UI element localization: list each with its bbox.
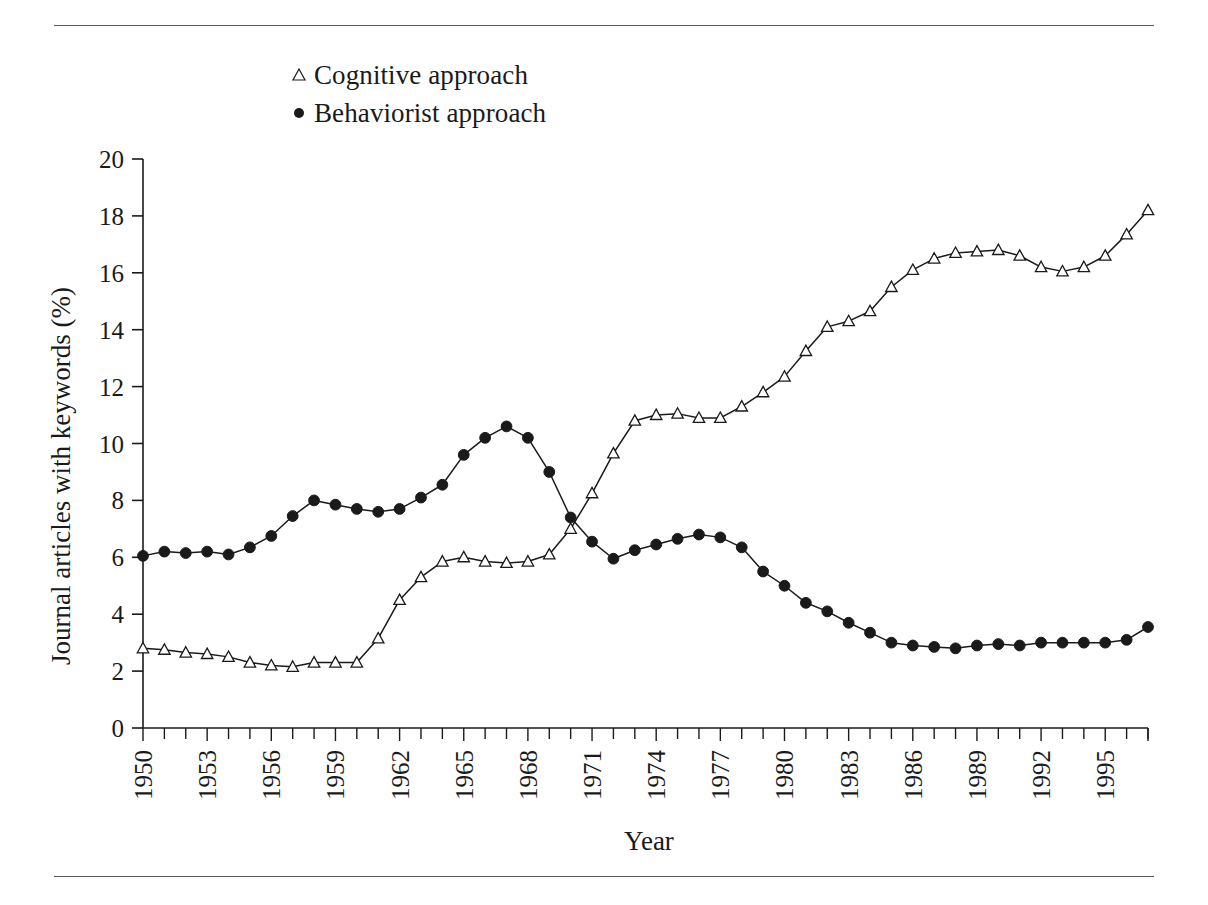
y-axis-title: Journal articles with keywords (%) — [46, 287, 77, 665]
x-tick-label: 1953 — [194, 750, 221, 800]
data-point-marker — [202, 546, 213, 557]
x-tick-label: 1974 — [643, 750, 670, 801]
data-point-marker — [758, 566, 769, 577]
data-point-marker — [223, 549, 234, 560]
data-point-marker — [608, 553, 619, 564]
data-point-marker — [1078, 637, 1089, 648]
data-point-marker — [736, 401, 747, 411]
x-tick-label: 1956 — [258, 750, 285, 800]
data-point-marker — [865, 627, 876, 638]
data-point-marker — [929, 642, 940, 653]
data-point-marker — [309, 495, 320, 506]
data-point-marker — [587, 536, 598, 547]
data-point-marker — [843, 315, 854, 325]
x-tick-label: 1962 — [387, 750, 414, 800]
data-point-marker — [330, 499, 341, 510]
data-point-marker — [608, 448, 619, 458]
data-point-marker — [843, 617, 854, 628]
data-point-marker — [266, 531, 277, 542]
data-point-marker — [373, 506, 384, 517]
data-point-marker — [1143, 622, 1154, 633]
axis-layer — [132, 159, 1148, 741]
data-point-marker — [437, 479, 448, 490]
data-point-marker — [522, 432, 533, 443]
x-tick-label: 1950 — [130, 750, 157, 800]
line-chart-plot: 0246810121416182019501953195619591962196… — [0, 0, 1208, 905]
data-point-marker — [779, 580, 790, 591]
data-point-marker — [694, 529, 705, 540]
data-point-marker — [137, 642, 148, 652]
data-point-marker — [629, 545, 640, 556]
y-tick-label: 14 — [99, 317, 125, 344]
data-point-marker — [180, 548, 191, 559]
x-axis-title: Year — [45, 826, 1208, 857]
x-tick-label: 1971 — [579, 750, 606, 800]
series-behaviorist — [138, 421, 1154, 654]
data-point-marker — [672, 408, 683, 418]
y-tick-label: 18 — [99, 203, 124, 230]
data-point-marker — [972, 640, 983, 651]
y-tick-label: 12 — [99, 374, 124, 401]
data-point-marker — [287, 511, 298, 522]
data-point-marker — [993, 244, 1004, 254]
series-line — [143, 426, 1148, 648]
data-point-marker — [1142, 204, 1153, 214]
data-point-marker — [159, 546, 170, 557]
data-point-marker — [907, 264, 918, 274]
y-tick-label: 8 — [112, 487, 125, 514]
y-tick-label: 10 — [99, 431, 124, 458]
data-point-marker — [950, 643, 961, 654]
data-point-marker — [416, 492, 427, 503]
data-point-marker — [993, 639, 1004, 650]
data-point-marker — [1078, 261, 1089, 271]
data-point-marker — [1036, 637, 1047, 648]
data-point-marker — [458, 449, 469, 460]
data-point-marker — [672, 533, 683, 544]
data-point-marker — [736, 542, 747, 553]
x-tick-label: 1983 — [836, 750, 863, 800]
y-tick-label: 20 — [99, 146, 124, 173]
data-point-marker — [1100, 637, 1111, 648]
y-tick-label: 16 — [99, 260, 124, 287]
data-point-marker — [1014, 640, 1025, 651]
data-point-marker — [1035, 261, 1046, 271]
data-point-marker — [565, 512, 576, 523]
data-point-marker — [480, 432, 491, 443]
data-point-marker — [822, 606, 833, 617]
x-tick-label: 1989 — [964, 750, 991, 800]
data-point-marker — [800, 597, 811, 608]
data-point-marker — [458, 551, 469, 561]
data-point-marker — [651, 539, 662, 550]
data-point-marker — [415, 571, 426, 581]
y-tick-label: 2 — [112, 658, 125, 685]
x-tick-label: 1968 — [515, 750, 542, 800]
data-point-marker — [544, 467, 555, 478]
series-line — [143, 210, 1148, 667]
data-point-marker — [394, 504, 405, 515]
x-tick-label: 1980 — [771, 750, 798, 800]
data-point-marker — [245, 542, 256, 553]
data-point-marker — [565, 523, 576, 533]
data-point-marker — [907, 640, 918, 651]
figure-container: Cognitive approach Behaviorist approach … — [0, 0, 1208, 905]
x-tick-label: 1992 — [1028, 750, 1055, 800]
data-point-marker — [351, 504, 362, 515]
series-layer — [137, 204, 1153, 671]
x-tick-label: 1995 — [1092, 750, 1119, 800]
data-point-marker — [138, 550, 149, 561]
tick-label-layer: 0246810121416182019501953195619591962196… — [99, 146, 1119, 800]
y-tick-label: 4 — [112, 601, 125, 628]
data-point-marker — [586, 487, 597, 497]
x-tick-label: 1965 — [451, 750, 478, 800]
data-point-marker — [715, 532, 726, 543]
data-point-marker — [886, 637, 897, 648]
data-point-marker — [373, 632, 384, 642]
series-cognitive — [137, 204, 1153, 671]
y-tick-label: 0 — [112, 715, 125, 742]
y-tick-label: 6 — [112, 544, 125, 571]
x-tick-label: 1986 — [900, 750, 927, 800]
data-point-marker — [501, 421, 512, 432]
data-point-marker — [757, 386, 768, 396]
x-tick-label: 1959 — [322, 750, 349, 800]
data-point-marker — [1121, 634, 1132, 645]
